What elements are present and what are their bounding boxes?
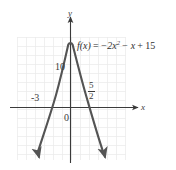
parabola-figure: y x 10 -3 0 5 2 f(x)=−2x2− x+ 15 <box>0 0 176 170</box>
x-tick-label-neg3: -3 <box>31 93 39 103</box>
y-tick-label-10: 10 <box>55 62 65 72</box>
origin-label: 0 <box>64 113 69 123</box>
fraction-denominator: 2 <box>88 92 95 101</box>
equation-label: f(x)=−2x2− x+ 15 <box>77 40 155 51</box>
equation-equals-sign: = <box>91 40 101 51</box>
x-tick-label-five-halves: 5 2 <box>88 81 95 101</box>
right-branch-arrow <box>104 151 106 158</box>
equation-term-constant: + 15 <box>135 40 155 51</box>
fraction-numerator: 5 <box>88 81 95 90</box>
y-axis-label: y <box>68 9 72 18</box>
equation-function-name: f(x) <box>77 40 91 51</box>
equation-term-linear: − x <box>120 40 135 51</box>
fraction-five-halves: 5 2 <box>88 81 95 101</box>
equation-term-quadratic: −2x <box>101 40 117 51</box>
left-branch-arrow <box>38 151 40 158</box>
x-axis-label: x <box>141 103 145 112</box>
